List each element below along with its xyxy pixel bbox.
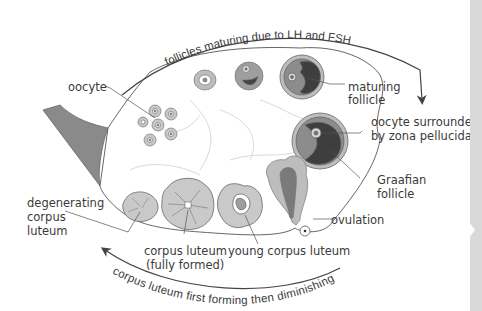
label-corpus-luteum-line1: corpus luteum [144,244,227,258]
label-graafian-line1: Graafian [377,173,426,187]
label-ovulation: ovulation [331,213,384,227]
label-maturing-follicle-line2: follicle [348,93,385,107]
young-corpus-luteum [218,184,263,228]
label-oocyte-zona-line2: by zona pellucida [371,129,472,143]
corpus-luteum-full [162,178,214,229]
label-oocyte-zona-line1: oocyte surrounded [371,115,479,129]
label-degenerating-line2: corpus [27,210,66,224]
ovary-cycle-diagram: follicles maturing due to LH and FSH cor… [0,0,482,311]
secondary-follicle [235,62,263,90]
maturing-follicle [280,55,324,99]
degenerating-corpus-luteum [123,192,158,222]
label-maturing-follicle-line1: maturing [348,80,401,94]
ovarian-ligament [43,105,108,186]
released-oocyte [300,226,310,236]
label-corpus-luteum-line2: (fully formed) [146,258,224,272]
label-oocyte: oocyte [68,80,107,94]
label-graafian-line2: follicle [377,187,414,201]
label-young-corpus-luteum: young corpus luteum [228,244,350,258]
page-edge-notch [469,222,475,238]
label-degenerating-line1: degenerating [27,196,104,210]
primary-follicle [194,70,216,90]
page-edge-strip [470,0,482,311]
label-degenerating-line3: luteum [27,224,68,238]
